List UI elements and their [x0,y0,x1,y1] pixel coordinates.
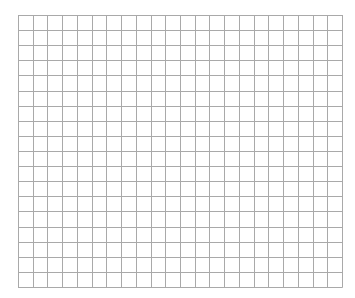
grid-paper [18,15,343,288]
